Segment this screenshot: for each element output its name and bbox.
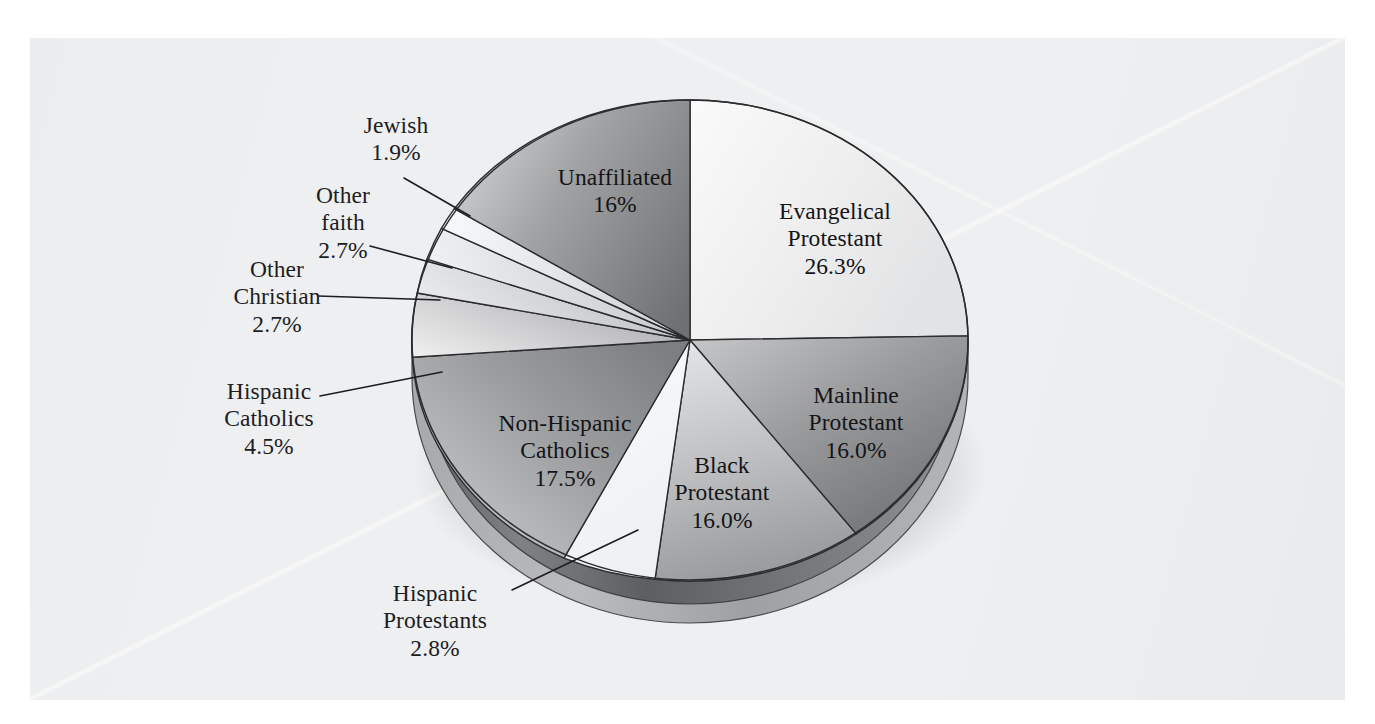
- leader-line-jewish: [404, 178, 470, 216]
- slice-label-evangelical-protestant: Evangelical Protestant 26.3%: [742, 198, 928, 280]
- slice-label-other-christian: Other Christian 2.7%: [206, 256, 348, 338]
- figure-page: Jewish 1.9% Other faith 2.7% Other Chris…: [0, 0, 1375, 724]
- slice-label-non-hispanic-catholics: Non-Hispanic Catholics 17.5%: [466, 410, 664, 492]
- slice-label-hispanic-catholics: Hispanic Catholics 4.5%: [194, 378, 344, 460]
- pie-chart-graphic: [0, 0, 1375, 724]
- slice-label-hispanic-protestants: Hispanic Protestants 2.8%: [344, 580, 526, 662]
- slice-label-black-protestant: Black Protestant 16.0%: [640, 452, 804, 534]
- slice-label-jewish: Jewish 1.9%: [336, 112, 456, 167]
- slice-label-unaffiliated: Unaffiliated 16%: [522, 164, 708, 219]
- slice-label-other-faith: Other faith 2.7%: [284, 182, 402, 264]
